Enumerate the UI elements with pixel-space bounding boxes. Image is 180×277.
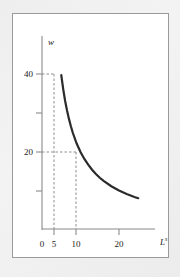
x-tick-label-10: 10 xyxy=(68,240,84,249)
figure-frame: w Ls 40 20 0 5 10 20 xyxy=(12,13,169,258)
plot-canvas xyxy=(13,14,168,257)
x-tick-label-0: 0 xyxy=(36,240,48,249)
y-tick-label-20: 20 xyxy=(19,148,33,157)
labor-supply-curve xyxy=(61,75,138,198)
y-tick-label-40: 40 xyxy=(19,70,33,79)
x-tick-label-20: 20 xyxy=(111,240,127,249)
screenshot-root: w Ls 40 20 0 5 10 20 xyxy=(0,0,180,277)
x-tick-label-5: 5 xyxy=(48,240,60,249)
x-axis-label: Ls xyxy=(160,236,167,247)
y-axis-label: w xyxy=(48,38,54,47)
